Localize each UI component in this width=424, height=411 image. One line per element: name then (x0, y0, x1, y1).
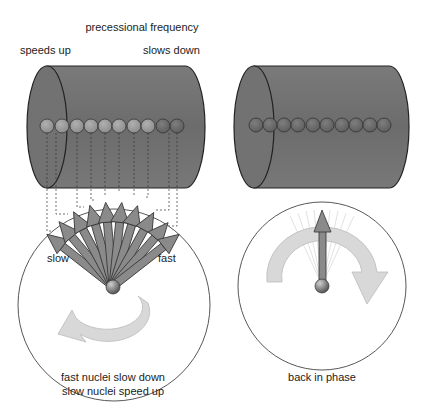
caption-left-line2: slow nuclei speed up (62, 385, 164, 397)
fast-label: fast (158, 252, 176, 264)
caption-right: back in phase (288, 371, 356, 383)
speeds-up-label: speeds up (20, 44, 71, 56)
caption-left-line1: fast nuclei slow down (61, 371, 165, 383)
title-label: precessional frequency (85, 21, 198, 33)
right-pivot-ball (315, 279, 329, 293)
left-pivot-ball (106, 280, 120, 294)
slow-label: slow (47, 252, 69, 264)
slows-down-label: slows down (143, 44, 200, 56)
diagram-canvas (0, 0, 424, 411)
